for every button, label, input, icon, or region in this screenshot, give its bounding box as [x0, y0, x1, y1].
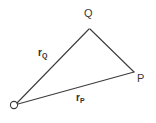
vector-triangle-figure: Q P O rQ rP [0, 0, 156, 123]
origin-marker-icon [10, 101, 17, 108]
edge-line-QP [90, 29, 134, 72]
triangle-drawing [0, 0, 156, 123]
edge-label-r-Q: rQ [38, 48, 47, 58]
edge-label-r-P-subscript: P [80, 97, 85, 104]
vertex-label-Q: Q [84, 8, 93, 19]
edge-label-r-Q-subscript: Q [42, 52, 47, 59]
vertex-label-P: P [137, 73, 144, 84]
edge-label-r-P: rP [76, 93, 85, 103]
